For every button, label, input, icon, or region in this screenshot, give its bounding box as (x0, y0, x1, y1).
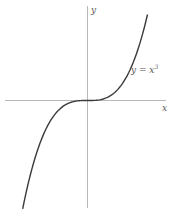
cubic-curve (23, 15, 148, 209)
y-axis-label: y (90, 5, 97, 15)
x-axis-label: x (162, 103, 167, 113)
curve-label: y = x3 (130, 63, 158, 75)
cubic-plot: y x y = x3 (0, 0, 173, 217)
